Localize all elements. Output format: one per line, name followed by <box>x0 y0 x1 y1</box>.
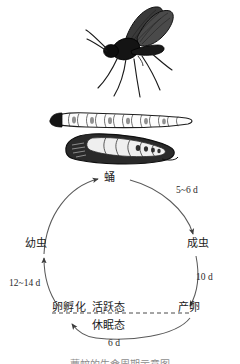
illustration-panel <box>0 0 240 172</box>
cycle-arcs <box>0 166 240 364</box>
cycle-node-larva: 幼虫 <box>25 238 48 250</box>
state-label-dormant: 休眠态 <box>92 320 125 332</box>
cycle-node-oviposit: 产卵 <box>178 302 201 314</box>
cycle-node-adult: 成虫 <box>187 238 210 250</box>
state-label-active: 活跃态 <box>92 302 125 314</box>
life-cycle-figure: 蛹 成虫 产卵 卵孵化 幼虫 5~6 d 10 d 6 d 12~14 d 活跃… <box>0 0 240 364</box>
duration-hatching-to-larva: 12~14 d <box>9 278 40 289</box>
larva-illustration <box>44 108 196 132</box>
life-cycle-diagram: 蛹 成虫 产卵 卵孵化 幼虫 5~6 d 10 d 6 d 12~14 d 活跃… <box>0 166 240 364</box>
adult-gnat-illustration <box>82 4 180 104</box>
duration-oviposition-to-hatching: 6 d <box>108 338 120 349</box>
duration-pupa-to-adult: 5~6 d <box>176 185 198 196</box>
cycle-node-egg-hatching: 卵孵化 <box>52 302 86 314</box>
cycle-node-pupa: 蛹 <box>104 172 115 184</box>
pupa-illustration <box>58 130 182 168</box>
duration-adult-to-oviposition: 10 d <box>196 272 213 283</box>
figure-caption: 蕈蚊的生命周期示意图 <box>0 356 240 364</box>
